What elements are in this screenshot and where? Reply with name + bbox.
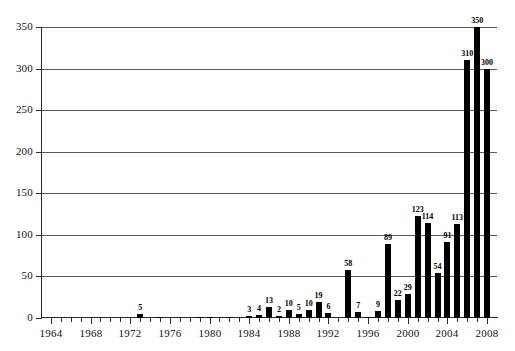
x-tick-mark-minor xyxy=(428,318,429,322)
x-tick-mark-minor xyxy=(358,318,359,322)
x-tick-mark-major xyxy=(368,318,369,324)
x-tick-mark-major xyxy=(51,318,52,324)
y-tick-label: 150 xyxy=(0,187,33,198)
bar-value-label: 29 xyxy=(404,284,412,292)
bar xyxy=(405,294,411,318)
gridline-y xyxy=(41,110,497,111)
bar-value-label: 5 xyxy=(297,304,301,312)
x-tick-mark-minor xyxy=(388,318,389,322)
x-tick-mark-minor xyxy=(239,318,240,322)
x-tick-mark-major xyxy=(249,318,250,324)
x-tick-mark-major xyxy=(328,318,329,324)
x-tick-mark-minor xyxy=(279,318,280,322)
bar-value-label: 22 xyxy=(394,290,402,298)
bar-value-label: 58 xyxy=(344,260,352,268)
bar xyxy=(345,270,351,318)
plot-area: 5341321051019658798922291231145491113310… xyxy=(41,27,497,318)
gridline-y xyxy=(41,27,497,28)
x-tick-label: 2008 xyxy=(476,327,499,339)
x-tick-label: 1964 xyxy=(40,327,63,339)
x-tick-mark-minor xyxy=(140,318,141,322)
bar-value-label: 89 xyxy=(384,234,392,242)
y-tick-label: 350 xyxy=(0,21,33,32)
x-tick-label: 2004 xyxy=(436,327,459,339)
bar-value-label: 5 xyxy=(138,304,142,312)
x-tick-mark-minor xyxy=(150,318,151,322)
bar-value-label: 6 xyxy=(326,303,330,311)
bar-value-label: 10 xyxy=(285,300,293,308)
bar-value-label: 13 xyxy=(265,297,273,305)
x-tick-mark-minor xyxy=(259,318,260,322)
bar xyxy=(286,310,292,318)
x-tick-label: 1996 xyxy=(357,327,380,339)
bar xyxy=(415,216,421,318)
x-tick-label: 1980 xyxy=(199,327,222,339)
x-tick-mark-minor xyxy=(457,318,458,322)
x-tick-mark-minor xyxy=(477,318,478,322)
bar xyxy=(444,242,450,318)
bar-value-label: 9 xyxy=(376,301,380,309)
x-tick-mark-minor xyxy=(299,318,300,322)
bar-value-label: 350 xyxy=(471,17,483,25)
x-tick-label: 1976 xyxy=(159,327,182,339)
y-tick-label: 250 xyxy=(0,104,33,115)
gridline-y xyxy=(41,193,497,194)
x-tick-mark-minor xyxy=(338,318,339,322)
y-tick-label: 0 xyxy=(0,312,33,323)
bar xyxy=(474,27,480,318)
bar-value-label: 91 xyxy=(443,232,451,240)
y-tick-label: 200 xyxy=(0,146,33,157)
bar xyxy=(435,273,441,318)
bar-value-label: 2 xyxy=(277,306,281,314)
bar xyxy=(266,307,272,318)
gridline-y xyxy=(41,152,497,153)
bar xyxy=(375,311,381,318)
x-tick-mark-major xyxy=(447,318,448,324)
y-tick-mark xyxy=(36,27,42,28)
bar xyxy=(395,300,401,318)
bar xyxy=(484,69,490,318)
bar xyxy=(454,224,460,318)
x-tick-mark-minor xyxy=(467,318,468,322)
x-tick-mark-major xyxy=(289,318,290,324)
y-tick-mark xyxy=(36,152,42,153)
x-tick-mark-minor xyxy=(81,318,82,322)
bar-value-label: 3 xyxy=(247,306,251,314)
x-tick-mark-minor xyxy=(438,318,439,322)
x-tick-label: 1972 xyxy=(119,327,142,339)
x-tick-label: 1984 xyxy=(238,327,261,339)
y-tick-mark xyxy=(36,69,42,70)
x-tick-mark-minor xyxy=(418,318,419,322)
bar-chart: 5341321051019658798922291231145491113310… xyxy=(0,0,515,351)
bar-value-label: 4 xyxy=(257,305,261,313)
y-tick-mark xyxy=(36,235,42,236)
x-tick-mark-minor xyxy=(398,318,399,322)
bar xyxy=(425,223,431,318)
x-tick-mark-minor xyxy=(190,318,191,322)
x-tick-mark-minor xyxy=(378,318,379,322)
x-tick-mark-minor xyxy=(180,318,181,322)
bar xyxy=(316,302,322,318)
bar xyxy=(306,310,312,318)
x-tick-mark-minor xyxy=(348,318,349,322)
y-tick-label: 50 xyxy=(0,270,33,281)
x-tick-label: 1988 xyxy=(278,327,301,339)
x-tick-mark-minor xyxy=(61,318,62,322)
x-tick-mark-minor xyxy=(160,318,161,322)
x-tick-mark-minor xyxy=(229,318,230,322)
bar-value-label: 54 xyxy=(434,263,442,271)
x-tick-mark-minor xyxy=(71,318,72,322)
y-tick-label: 100 xyxy=(0,229,33,240)
gridline-y xyxy=(41,69,497,70)
bar-value-label: 310 xyxy=(461,50,473,58)
x-tick-mark-minor xyxy=(269,318,270,322)
bar-value-label: 19 xyxy=(315,292,323,300)
y-tick-mark xyxy=(36,318,42,319)
x-tick-label: 2000 xyxy=(397,327,420,339)
x-tick-mark-minor xyxy=(309,318,310,322)
bar-value-label: 7 xyxy=(356,302,360,310)
x-tick-mark-minor xyxy=(110,318,111,322)
bar xyxy=(385,244,391,318)
x-tick-label: 1992 xyxy=(317,327,340,339)
x-tick-mark-minor xyxy=(100,318,101,322)
